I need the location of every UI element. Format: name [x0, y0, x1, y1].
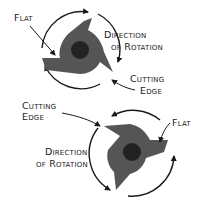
bottom-cutting-label-line1: Cutting: [22, 101, 56, 111]
bottom-cutting-edge-leader: [62, 113, 100, 126]
top-direction-label-line1: Direction: [104, 30, 146, 40]
top-direction-label-line2: of Rotation: [111, 42, 163, 52]
bottom-flat-label: Flat: [172, 118, 191, 128]
bottom-rotation-arc-2: [89, 128, 110, 190]
bottom-direction-label-line2: of Rotation: [36, 159, 88, 169]
top-cutting-label-line1: Cutting: [130, 74, 164, 84]
top-flat-label: Flat: [14, 13, 33, 23]
bottom-rotation-arc-1: [112, 110, 160, 120]
bottom-cutter-hub: [123, 143, 141, 161]
top-flat-leader: [30, 26, 55, 55]
bottom-cutting-label-line2: Edge: [22, 112, 44, 122]
bottom-direction-label-line1: Direction: [45, 147, 87, 157]
top-cutter-hub: [71, 41, 89, 59]
bottom-flat-leader: [160, 123, 170, 142]
top-cutting-label-line2: Edge: [140, 86, 162, 96]
